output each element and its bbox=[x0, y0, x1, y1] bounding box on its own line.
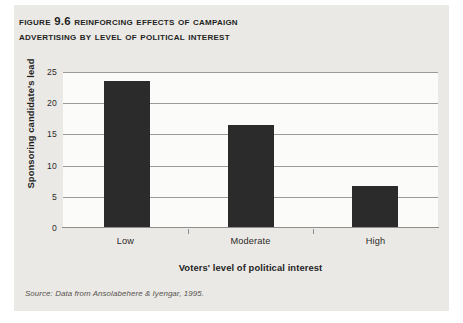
x-tick-label-moderate: Moderate bbox=[188, 236, 313, 246]
x-axis-line bbox=[62, 227, 439, 228]
x-axis-tick-2 bbox=[313, 229, 314, 234]
figure-title: Figure 9.6 Reinforcing Effects of Campai… bbox=[19, 14, 419, 44]
x-axis-tick-1 bbox=[188, 229, 189, 234]
figure-title-line-2: Advertising by Level of Political Intere… bbox=[19, 29, 419, 44]
figure-container: Figure 9.6 Reinforcing Effects of Campai… bbox=[0, 0, 463, 323]
plot-area bbox=[63, 72, 438, 228]
y-tick-label: 5 bbox=[31, 192, 57, 202]
y-tick-label: 10 bbox=[31, 161, 57, 171]
y-tick-label: 15 bbox=[31, 129, 57, 139]
bar-moderate[interactable] bbox=[228, 125, 274, 228]
x-axis-title: Voters' level of political interest bbox=[63, 262, 438, 273]
y-axis-tick-labels: 25 20 15 10 5 0 bbox=[27, 72, 57, 228]
y-tick-label: 0 bbox=[31, 223, 57, 233]
gridline-25 bbox=[63, 72, 438, 73]
x-tick-label-low: Low bbox=[63, 236, 188, 246]
bar-high[interactable] bbox=[352, 186, 398, 228]
figure-title-line-1: Figure 9.6 Reinforcing Effects of Campai… bbox=[19, 14, 419, 29]
y-tick-label: 25 bbox=[31, 67, 57, 77]
x-tick-label-high: High bbox=[313, 236, 438, 246]
y-tick-label: 20 bbox=[31, 98, 57, 108]
bar-low[interactable] bbox=[104, 81, 150, 228]
source-note: Source: Data from Ansolabehere & Iyengar… bbox=[25, 289, 204, 298]
